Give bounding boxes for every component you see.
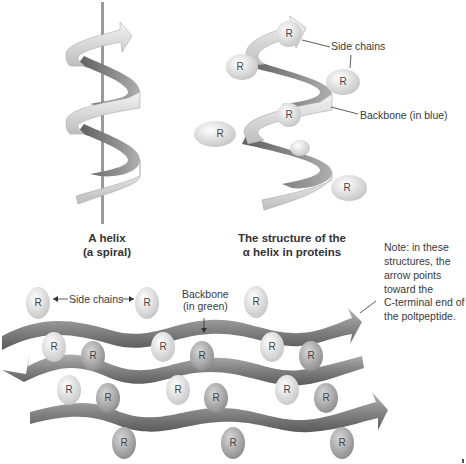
svg-text:R: R [285,28,292,39]
svg-text:R: R [174,384,181,395]
svg-text:R: R [89,350,96,361]
svg-text:R: R [120,437,127,448]
svg-text:R: R [252,296,259,307]
simple-helix [66,2,140,224]
svg-text:R: R [268,341,275,352]
svg-text:R: R [283,384,290,395]
svg-text:R: R [338,437,345,448]
svg-text:R: R [34,297,41,308]
svg-text:R: R [322,392,329,403]
beta-backbone-label: Backbone (in green) [182,288,229,312]
svg-text:R: R [285,109,292,120]
svg-text:R: R [216,128,223,139]
svg-text:R: R [339,76,346,87]
alpha-helix-caption: The structure of the α helix in proteins [222,232,362,260]
svg-text:R: R [159,341,166,352]
svg-text:R: R [65,384,72,395]
svg-text:R: R [307,350,314,361]
svg-text:R: R [236,61,243,72]
svg-text:R: R [104,392,111,403]
note-text: Note: in these structures, the arrow poi… [384,241,465,324]
svg-text:R: R [229,437,236,448]
svg-text:R: R [198,350,205,361]
alpha-backbone-label: Backbone (in blue) [360,109,448,121]
simple-helix-caption: A helix (a spiral) [62,232,152,260]
alpha-side-chains-label: Side chains [331,40,385,52]
beta-side-chains-label: Side chains [69,293,123,305]
svg-text:R: R [143,297,150,308]
svg-text:R: R [212,392,219,403]
svg-text:R: R [50,341,57,352]
svg-text:R: R [343,182,350,193]
